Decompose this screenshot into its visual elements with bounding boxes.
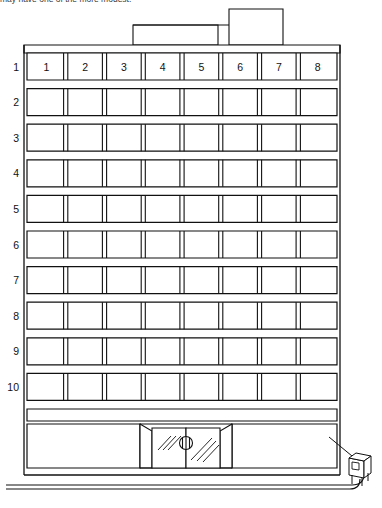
window-band	[27, 231, 337, 258]
floor-band	[27, 89, 337, 116]
bay-number-label: 3	[121, 61, 127, 73]
floor-band	[27, 53, 337, 80]
window-band	[27, 89, 337, 116]
floor-number-label: 7	[13, 274, 19, 286]
glass-door-left[interactable]	[152, 428, 186, 468]
penthouse-low	[133, 25, 218, 45]
floor-number-label: 8	[13, 310, 19, 322]
window-band	[27, 373, 337, 400]
elevation-drawing-canvas: may have one of the more modest. 1234567…	[0, 0, 382, 508]
street-lines	[6, 474, 364, 489]
floor-number-label: 9	[13, 345, 19, 357]
bay-number-label: 6	[237, 61, 243, 73]
floor-number-label: 10	[7, 381, 19, 393]
ground-floor	[27, 409, 337, 468]
storefront-panel-right	[232, 424, 337, 468]
floor-band	[27, 373, 337, 400]
window-band	[27, 302, 337, 329]
window-band	[27, 53, 337, 80]
floor-number-label: 4	[13, 167, 19, 179]
bay-number-label: 5	[198, 61, 204, 73]
penthouse-tall	[229, 9, 283, 45]
window-band	[27, 160, 337, 187]
floor-band	[27, 231, 337, 258]
window-band	[27, 195, 337, 222]
floor-number-label: 2	[13, 96, 19, 108]
floor-number-labels: 12345678910	[7, 61, 19, 393]
floor-number-label: 1	[13, 61, 19, 73]
bay-number-label: 7	[276, 61, 282, 73]
street-line-inner	[6, 479, 360, 489]
door-handle[interactable]	[180, 437, 193, 450]
floor-band	[27, 338, 337, 365]
bay-number-label: 4	[160, 61, 166, 73]
building-elevation-svg: 12345678910 12345678	[0, 0, 382, 508]
parapet-band	[24, 45, 340, 53]
window-band	[27, 124, 337, 151]
ground-floor-header-band	[27, 409, 337, 421]
floor-number-label: 5	[13, 203, 19, 215]
window-band	[27, 338, 337, 365]
floor-band	[27, 160, 337, 187]
floor-window-bands	[27, 53, 337, 400]
bay-number-label: 1	[43, 61, 49, 73]
floor-band	[27, 195, 337, 222]
roof-structures	[133, 9, 283, 45]
bay-number-label: 2	[82, 61, 88, 73]
window-band	[27, 267, 337, 294]
floor-number-label: 3	[13, 132, 19, 144]
bay-number-label: 8	[315, 61, 321, 73]
floor-band	[27, 267, 337, 294]
storefront-panel-left	[27, 424, 140, 468]
roof-parapet	[24, 45, 340, 53]
floor-band	[27, 302, 337, 329]
floor-band	[27, 124, 337, 151]
floor-number-label: 6	[13, 239, 19, 251]
mailbox-slot	[352, 462, 359, 470]
